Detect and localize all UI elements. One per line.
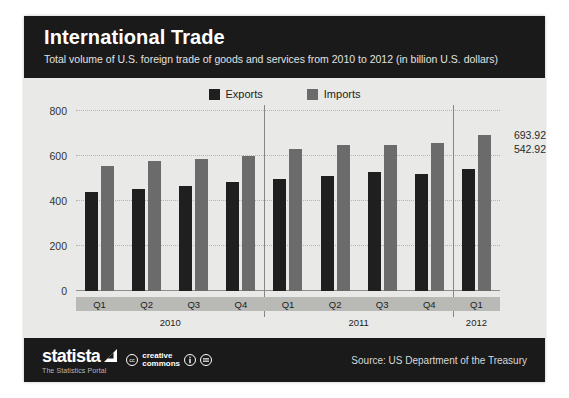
x-axis-quarter-label: Q4: [217, 297, 264, 311]
chart-header: International Trade Total volume of U.S.…: [24, 16, 545, 78]
bar-exports: [415, 174, 428, 291]
no-derivatives-icon: [200, 354, 212, 366]
bar-group: [453, 111, 500, 291]
chart-footer: statista The Statistics Portal cc creati…: [24, 338, 545, 382]
bar-imports: [289, 149, 302, 291]
statista-tagline: The Statistics Portal: [42, 367, 117, 374]
x-axis-quarter-label: Q2: [123, 297, 170, 311]
x-axis-quarter-label: Q4: [406, 297, 453, 311]
bar-imports: [478, 135, 491, 291]
x-axis-quarter-label: Q3: [359, 297, 406, 311]
brand-block: statista The Statistics Portal cc creati…: [42, 347, 212, 374]
page-title: International Trade: [44, 25, 545, 49]
bar-group: [264, 111, 311, 291]
creative-commons-block: cc creative commons: [126, 352, 212, 369]
statista-arrow-icon: [104, 349, 117, 362]
x-axis-quarter-label: Q1: [76, 297, 123, 311]
bar-groups: [76, 111, 500, 291]
y-axis-tick-800: 800: [49, 105, 67, 117]
x-axis-year-label: 2011: [264, 314, 452, 330]
bar-exports: [321, 176, 334, 291]
bar-exports: [179, 186, 192, 291]
y-axis-tick-600: 600: [49, 150, 67, 162]
bar-exports: [85, 192, 98, 291]
bar-exports: [132, 189, 145, 291]
callout-imports-value: 693.92: [514, 129, 546, 141]
y-axis-tick-400: 400: [49, 195, 67, 207]
bar-group: [406, 111, 453, 291]
statista-logo: statista The Statistics Portal: [42, 347, 117, 374]
chart-legend: Exports Imports: [24, 83, 545, 105]
y-axis-tick-0: 0: [61, 285, 67, 297]
legend-item-exports: Exports: [209, 88, 263, 100]
x-axis-quarter-label: Q1: [264, 297, 311, 311]
bar-exports: [226, 182, 239, 291]
bar-imports: [431, 143, 444, 291]
chart-subtitle: Total volume of U.S. foreign trade of go…: [44, 52, 545, 67]
x-axis-year-band: 201020112012: [76, 314, 500, 330]
bar-group: [170, 111, 217, 291]
x-axis-quarter-label: Q2: [312, 297, 359, 311]
svg-text:cc: cc: [129, 357, 135, 363]
year-separator: [453, 105, 454, 317]
bar-group: [359, 111, 406, 291]
bar-exports: [462, 169, 475, 291]
plot-area: 0200400600800 693.92 542.92 Q1Q2Q3Q4Q1Q2…: [24, 105, 545, 330]
bar-group: [312, 111, 359, 291]
x-axis-quarter-label: Q3: [170, 297, 217, 311]
legend-item-imports: Imports: [307, 88, 361, 100]
bar-exports: [368, 172, 381, 291]
statista-wordmark: statista: [42, 347, 117, 365]
plot-inner: 0200400600800 693.92 542.92: [76, 111, 500, 291]
bar-group: [76, 111, 123, 291]
y-axis-tick-200: 200: [49, 240, 67, 252]
callout-exports-value: 542.92: [514, 143, 546, 155]
creative-commons-icon: cc: [126, 354, 138, 366]
bar-imports: [337, 145, 350, 291]
bar-imports: [148, 161, 161, 291]
bar-imports: [101, 166, 114, 291]
bar-exports: [273, 179, 286, 292]
x-axis-year-label: 2012: [453, 314, 500, 330]
bar-imports: [195, 159, 208, 291]
attribution-icon: [184, 354, 196, 366]
chart-card: International Trade Total volume of U.S.…: [24, 16, 545, 382]
bar-group: [123, 111, 170, 291]
x-axis-year-label: 2010: [76, 314, 264, 330]
year-separator: [264, 105, 265, 317]
x-axis-quarter-band: Q1Q2Q3Q4Q1Q2Q3Q4Q1: [76, 297, 500, 311]
creative-commons-wordmark: creative commons: [142, 352, 180, 369]
source-note: Source: US Department of the Treasury: [351, 355, 527, 366]
legend-swatch-exports: [209, 89, 220, 100]
statista-name: statista: [42, 347, 100, 365]
bar-imports: [384, 145, 397, 291]
bar-group: [217, 111, 264, 291]
cc-line-commons: commons: [142, 360, 180, 369]
legend-label-exports: Exports: [226, 88, 263, 100]
legend-label-imports: Imports: [324, 88, 361, 100]
legend-swatch-imports: [307, 89, 318, 100]
bar-imports: [242, 156, 255, 291]
x-axis-quarter-label: Q1: [453, 297, 500, 311]
